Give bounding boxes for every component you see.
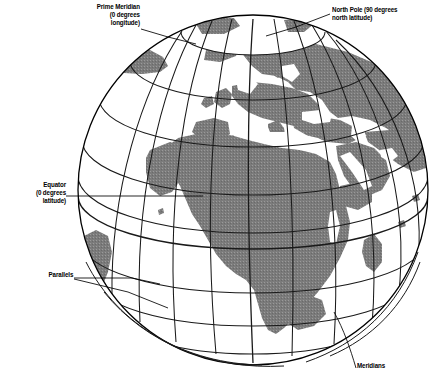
globe-diagram-figure: Prime Meridian (0 degrees longitude) Nor… [0, 0, 448, 386]
globe-illustration [0, 0, 448, 386]
canada-limb-landmass [80, 66, 108, 84]
label-prime-meridian: Prime Meridian (0 degrees longitude) [97, 3, 140, 28]
label-parallels: Parallels [48, 271, 73, 279]
label-equator: Equator (0 degrees latitude) [36, 181, 66, 206]
label-north-pole: North Pole (90 degrees north latitude) [332, 6, 397, 22]
label-meridians: Meridians [357, 362, 385, 370]
